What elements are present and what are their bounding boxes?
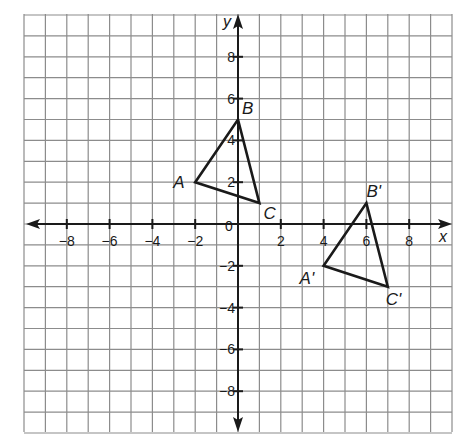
x-tick-label: −6 [102,233,118,249]
vertex-label: C [263,204,276,223]
vertex-label: A' [299,269,315,288]
y-tick-label: −8 [219,383,235,399]
vertex-label: B [242,99,253,118]
x-tick-label: 6 [363,233,371,249]
y-tick-label: −6 [219,341,235,357]
x-tick-label: −8 [59,233,75,249]
y-axis-label: y [222,13,232,30]
x-tick-label: 2 [277,233,285,249]
vertex-label: B' [366,182,381,201]
y-tick-label: 6 [227,91,235,107]
x-tick-label: −2 [187,233,203,249]
x-axis-label: x [438,228,448,245]
y-tick-label: 8 [227,49,235,65]
x-tick-label: 8 [405,233,413,249]
x-tick-label: −4 [144,233,160,249]
origin-label: 0 [225,218,233,234]
vertex-label: A [172,173,184,192]
y-tick-label: 2 [227,174,235,190]
x-tick-label: 4 [320,233,328,249]
vertex-label: C' [386,290,402,309]
coordinate-plane: −8−6−4−224688642−2−4−6−8 x y 0 ABCA'B'C' [0,0,464,443]
y-tick-label: −4 [219,300,235,316]
y-tick-label: −2 [219,258,235,274]
